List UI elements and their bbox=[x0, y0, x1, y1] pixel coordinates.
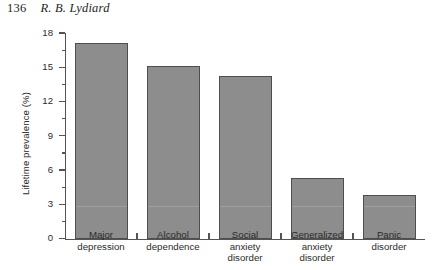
category-label-line: anxiety bbox=[205, 241, 285, 253]
x-axis-category-label: Alcoholdependence bbox=[133, 229, 213, 252]
y-tick-minor bbox=[62, 118, 66, 119]
x-axis-category-label: Majordepression bbox=[61, 229, 141, 252]
category-label-line: anxiety bbox=[277, 241, 357, 253]
plot-area: 0369121518 bbox=[65, 33, 425, 240]
y-tick-label: 3 bbox=[23, 198, 53, 209]
running-head: 136 R. B. Lydiard bbox=[7, 1, 110, 16]
y-axis-line bbox=[65, 33, 66, 240]
y-tick-major bbox=[59, 101, 65, 102]
y-tick-minor bbox=[62, 221, 66, 222]
bar bbox=[75, 43, 128, 238]
y-tick-label: 18 bbox=[23, 27, 53, 38]
y-tick-minor bbox=[62, 84, 66, 85]
category-label-line: Panic bbox=[349, 229, 429, 241]
category-label-line: Alcohol bbox=[133, 229, 213, 241]
y-tick-major bbox=[59, 204, 65, 205]
bar-chart-figure: Lifetime prevalence (%) 0369121518 Major… bbox=[0, 20, 439, 270]
category-label-line: disorder bbox=[349, 241, 429, 253]
y-tick-major bbox=[59, 135, 65, 136]
y-tick-major bbox=[59, 169, 65, 170]
x-axis-category-label: Socialanxietydisorder bbox=[205, 229, 285, 264]
y-tick-minor bbox=[62, 50, 66, 51]
category-label-line: Major bbox=[61, 229, 141, 241]
running-head-author: R. B. Lydiard bbox=[40, 1, 109, 15]
x-axis-category-label: Generalizedanxietydisorder bbox=[277, 229, 357, 264]
y-tick-label: 9 bbox=[23, 130, 53, 141]
y-tick-label: 12 bbox=[23, 95, 53, 106]
bar bbox=[219, 76, 272, 238]
category-label-line: dependence bbox=[133, 241, 213, 253]
y-tick-major bbox=[59, 67, 65, 68]
x-axis-category-label: Panicdisorder bbox=[349, 229, 429, 252]
y-tick-label: 0 bbox=[23, 232, 53, 243]
category-label-line: Social bbox=[205, 229, 285, 241]
y-tick-minor bbox=[62, 152, 66, 153]
y-tick-minor bbox=[62, 187, 66, 188]
bar bbox=[147, 66, 200, 238]
y-tick-major bbox=[59, 32, 65, 33]
category-label-line: Generalized bbox=[277, 229, 357, 241]
category-label-line: depression bbox=[61, 241, 141, 253]
y-axis-title: Lifetime prevalence (%) bbox=[20, 49, 31, 239]
page-folio: 136 bbox=[7, 1, 26, 15]
y-tick-label: 15 bbox=[23, 61, 53, 72]
category-label-line: disorder bbox=[277, 252, 357, 264]
y-tick-label: 6 bbox=[23, 164, 53, 175]
category-label-line: disorder bbox=[205, 252, 285, 264]
